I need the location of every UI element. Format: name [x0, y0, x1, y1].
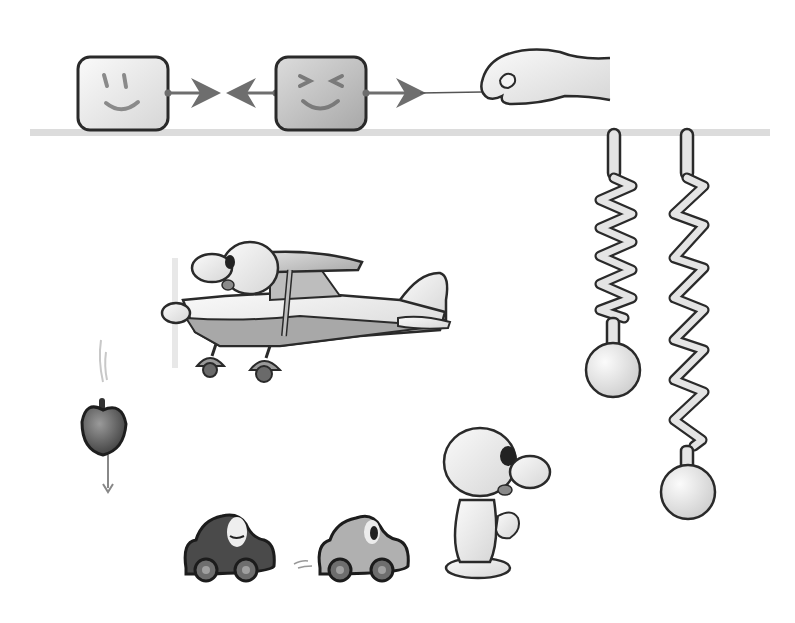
character-nose [510, 456, 550, 488]
ball-1 [586, 343, 640, 397]
apple [82, 407, 126, 455]
character-mouth [498, 485, 512, 495]
light-car [319, 516, 408, 581]
ball-2 [661, 465, 715, 519]
illustration-canvas [0, 0, 795, 623]
dark-car-eye [227, 517, 247, 547]
left-box-face [78, 57, 168, 130]
falling-apple-scene [82, 340, 126, 492]
character-eye [500, 446, 516, 466]
cars-scene [185, 515, 408, 581]
force-pair-scene [78, 50, 610, 130]
landing-gear [197, 344, 280, 382]
light-car-eye [370, 526, 378, 540]
character-hands [496, 512, 519, 538]
upper-wing [272, 252, 362, 272]
stretched-spring [661, 129, 715, 519]
character-body [455, 500, 496, 562]
airplane-scene [162, 242, 450, 382]
pulling-hand [481, 50, 610, 104]
pilot-character [192, 242, 278, 294]
motion-lines [100, 340, 107, 382]
watching-character [444, 428, 550, 578]
dark-car [185, 515, 274, 581]
springs-scene [586, 129, 715, 519]
propeller-hub [162, 303, 190, 323]
car-motion-lines [294, 561, 312, 568]
physics-illustration [0, 0, 795, 623]
compressed-spring [586, 129, 640, 397]
right-box-face-squinting [276, 57, 366, 130]
string [420, 92, 482, 93]
